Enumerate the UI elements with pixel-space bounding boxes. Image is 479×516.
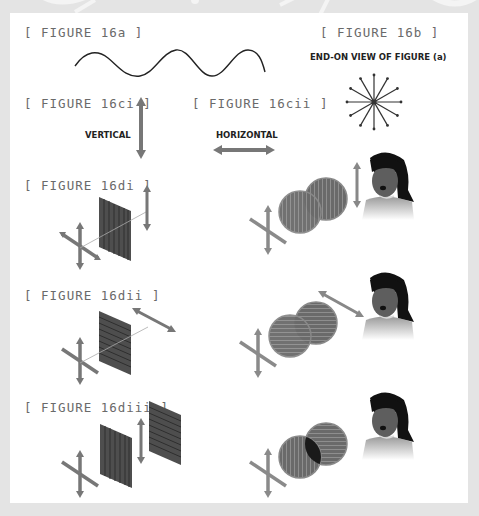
woman-portrait (356, 390, 418, 460)
figure-16cii-label: [ FIGURE 16cii ] (192, 96, 328, 111)
light-ray-line (80, 210, 148, 250)
sine-wave (74, 48, 266, 78)
transmitted-vertical-arrow (136, 418, 146, 464)
figure-16b-label: [ FIGURE 16b ] (320, 25, 439, 40)
figure-16b-caption: END-ON VIEW OF FIGURE (a) (310, 52, 447, 62)
end-on-star-diagram (344, 72, 404, 132)
woman-portrait (356, 150, 418, 220)
vertical-arrow-icon (135, 97, 147, 159)
horizontal-arrow-icon (213, 144, 275, 156)
polarized-sunglasses-lenses (278, 176, 350, 236)
figure-16di-label: [ FIGURE 16di ] (24, 178, 152, 193)
crossed-polarizer-lenses (278, 421, 350, 481)
horizontal-polarizing-filter (148, 401, 182, 465)
figure-16ci-label: [ FIGURE 16ci ] (24, 96, 152, 111)
figure-16ci-caption: VERTICAL (85, 130, 131, 140)
transmitted-vertical-arrow (142, 185, 152, 231)
woman-portrait (356, 270, 418, 340)
figure-16dii-label: [ FIGURE 16dii ] (24, 288, 160, 303)
vertical-polarizing-filter (99, 424, 133, 488)
figure-16a-label: [ FIGURE 16a ] (24, 25, 143, 40)
figure-16cii-caption: HORIZONTAL (216, 130, 278, 140)
transmitted-diagonal-arrow (132, 308, 176, 332)
